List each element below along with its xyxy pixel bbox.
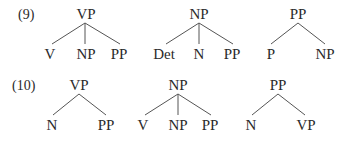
tree-leaf: PP [224,46,241,62]
tree-np: NP V NP PP [138,77,219,133]
tree-leaf: NP [315,46,334,62]
example-10: (10) VP N PP NP V NP PP PP N VP [12,77,316,133]
tree-edge [145,94,178,115]
syntax-tree-diagram: (9) VP V NP PP NP Det N PP PP P NP [0,0,344,142]
tree-leaf: V [45,46,56,62]
tree-leaf: PP [111,46,128,62]
tree-leaf: PP [202,117,219,133]
tree-leaf: PP [98,117,115,133]
tree-leaf: NP [168,117,187,133]
tree-edge [271,23,298,44]
tree-edge [178,94,211,115]
tree-root: VP [69,77,88,93]
tree-vp: VP N PP [47,77,115,133]
tree-root: NP [189,6,208,22]
tree-leaf: Det [153,46,175,62]
example-number: (9) [18,7,35,23]
tree-root: PP [290,6,307,22]
example-number: (10) [12,78,36,94]
tree-pp: PP P NP [267,6,335,62]
tree-leaf: N [194,46,205,62]
tree-leaf: N [47,117,58,133]
tree-leaf: V [138,117,149,133]
tree-leaf: VP [296,117,315,133]
tree-edge [79,94,106,115]
tree-leaf: N [246,117,257,133]
tree-edge [199,23,233,44]
tree-edge [166,23,199,44]
tree-edge [52,23,85,44]
tree-leaf: P [267,46,275,62]
tree-edge [53,94,79,115]
tree-pp: PP N VP [246,77,316,133]
tree-edge [298,23,325,44]
tree-edge [278,94,305,115]
tree-root: NP [168,77,187,93]
tree-edge [252,94,278,115]
tree-np: NP Det N PP [153,6,240,62]
tree-leaf: NP [76,46,95,62]
tree-edge [85,23,120,44]
tree-vp: VP V NP PP [45,6,128,62]
example-9: (9) VP V NP PP NP Det N PP PP P NP [18,6,335,62]
tree-root: PP [270,77,287,93]
tree-root: VP [76,6,95,22]
